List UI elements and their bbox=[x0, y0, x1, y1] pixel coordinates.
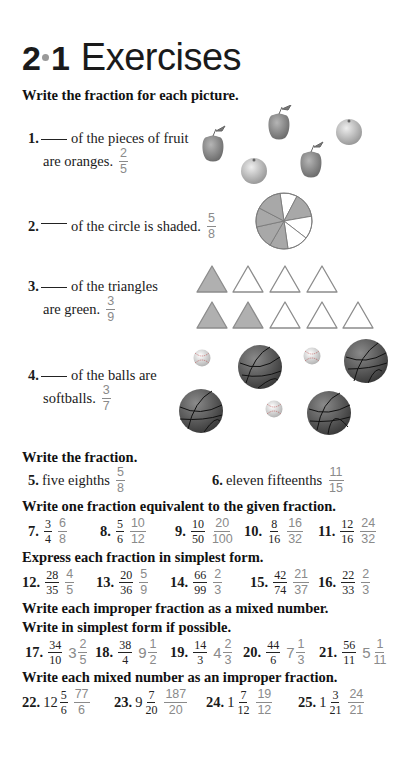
problem-text: of the pieces of fruit bbox=[71, 130, 189, 146]
triangle-icon bbox=[270, 266, 300, 292]
problem-12: 12. 2835 45 bbox=[22, 568, 76, 596]
orange-icon bbox=[241, 158, 267, 184]
problem-text: softballs. bbox=[43, 389, 96, 408]
problem-number: 3. bbox=[28, 278, 39, 294]
question-fraction: 4274 bbox=[273, 569, 287, 596]
answer-whole: 9 bbox=[138, 643, 146, 662]
problem-25: 25. 1321 2421 bbox=[298, 688, 366, 716]
problem-text: five eighths bbox=[42, 471, 110, 490]
basketball-icon bbox=[344, 339, 388, 383]
problem-number: 5. bbox=[28, 471, 39, 490]
part4-heading: Express each fraction in simplest form. bbox=[22, 549, 263, 566]
answer-fraction: 25 bbox=[78, 638, 87, 666]
orange-icon bbox=[336, 119, 362, 145]
problem-number: 2. bbox=[28, 217, 39, 236]
answer-fraction: 2432 bbox=[360, 517, 376, 545]
question-whole: 9 bbox=[135, 693, 142, 712]
problem-number: 4. bbox=[28, 367, 39, 383]
answer-fraction: 12 bbox=[148, 638, 157, 666]
question-fraction: 1216 bbox=[340, 518, 354, 545]
question-fraction: 816 bbox=[267, 518, 281, 545]
part3-row: 7. 34 68 8. 56 1012 9. 1050 20100 10. 81… bbox=[28, 517, 408, 547]
answer-fraction: 1632 bbox=[287, 517, 303, 545]
answer-whole: 4 bbox=[213, 643, 221, 662]
answer-fraction: 58 bbox=[116, 466, 125, 494]
answer-blank bbox=[41, 223, 67, 224]
problem-20: 20. 446 713 bbox=[243, 638, 307, 666]
question-fraction: 321 bbox=[328, 689, 342, 716]
answer-fraction: 25 bbox=[119, 147, 128, 175]
problem-8: 8. 56 1012 bbox=[100, 517, 148, 545]
answer-fraction: 18720 bbox=[164, 688, 187, 716]
part5-row: 17. 3410 325 18. 384 912 19. 143 423 20.… bbox=[25, 638, 409, 668]
answer-fraction: 1912 bbox=[256, 688, 272, 716]
problem-number: 1. bbox=[28, 130, 39, 146]
part6-row: 22. 1256 776 23. 9720 18720 24. 1712 191… bbox=[22, 688, 408, 718]
part5-heading-1: Write each improper fraction as a mixed … bbox=[22, 600, 328, 617]
problem-number: 6. bbox=[212, 471, 223, 490]
answer-fraction: 68 bbox=[58, 517, 67, 545]
problem-10: 10. 816 1632 bbox=[244, 517, 305, 545]
apple-icon bbox=[203, 126, 226, 162]
question-fraction: 2835 bbox=[45, 569, 59, 596]
section-number: 2 bbox=[22, 39, 40, 78]
question-fraction: 384 bbox=[118, 639, 132, 666]
part3-heading: Write one fraction equivalent to the giv… bbox=[22, 498, 336, 515]
answer-fraction: 13 bbox=[296, 638, 305, 666]
question-fraction: 712 bbox=[236, 689, 250, 716]
problem-21: 21. 5611 5111 bbox=[319, 638, 389, 666]
problem-19: 19. 143 423 bbox=[170, 638, 234, 666]
answer-fraction: 37 bbox=[102, 384, 111, 412]
problem-1: 1.of the pieces of fruit bbox=[28, 129, 188, 148]
problem-4: 4.of the balls are bbox=[28, 366, 157, 385]
problem-23: 23. 9720 18720 bbox=[114, 688, 189, 716]
ball-icon-group bbox=[170, 335, 395, 435]
softball-icon bbox=[266, 401, 283, 418]
answer-blank bbox=[41, 287, 67, 288]
question-fraction: 34 bbox=[44, 518, 52, 545]
problem-17: 17. 3410 325 bbox=[25, 638, 89, 666]
question-whole: 1 bbox=[227, 693, 234, 712]
part4-row: 12. 2835 45 13. 2036 59 14. 6699 23 15. … bbox=[22, 568, 408, 598]
question-fraction: 446 bbox=[266, 639, 280, 666]
pie-circle-icon bbox=[254, 191, 314, 251]
basketball-icon bbox=[238, 345, 282, 389]
problem-14: 14. 6699 23 bbox=[170, 568, 224, 596]
problem-text: of the balls are bbox=[71, 367, 157, 383]
section-dot-icon bbox=[42, 54, 49, 61]
problem-text: are oranges. bbox=[43, 152, 113, 171]
part1-heading: Write the fraction for each picture. bbox=[22, 87, 239, 104]
problem-4-line2: softballs. 37 bbox=[43, 384, 113, 412]
problem-16: 16. 2233 23 bbox=[318, 568, 372, 596]
question-fraction: 56 bbox=[116, 518, 124, 545]
answer-whole: 7 bbox=[286, 643, 294, 662]
problem-24: 24. 1712 1912 bbox=[206, 688, 274, 716]
answer-whole: 3 bbox=[68, 643, 76, 662]
triangle-icon bbox=[197, 266, 227, 292]
apple-icon bbox=[301, 142, 324, 178]
problem-9: 9. 1050 20100 bbox=[175, 517, 236, 545]
problem-6: 6. eleven fifteenths 1115 bbox=[212, 466, 346, 494]
answer-fraction: 59 bbox=[139, 568, 148, 596]
triangle-icon-group bbox=[190, 258, 380, 333]
answer-fraction: 2421 bbox=[348, 688, 364, 716]
triangle-icon bbox=[270, 302, 300, 328]
answer-fraction: 111 bbox=[372, 638, 387, 666]
question-fraction: 56 bbox=[60, 689, 68, 716]
triangle-icon bbox=[233, 266, 263, 292]
problem-22: 22. 1256 776 bbox=[22, 688, 92, 716]
part5-heading-2: Write in simplest form if possible. bbox=[22, 619, 231, 636]
part2-heading: Write the fraction. bbox=[22, 449, 137, 466]
question-whole: 1 bbox=[319, 693, 326, 712]
subsection-number: 1 bbox=[51, 39, 69, 78]
question-fraction: 6699 bbox=[193, 569, 207, 596]
problem-text: of the circle is shaded. bbox=[71, 217, 201, 236]
problem-18: 18. 384 912 bbox=[95, 638, 159, 666]
answer-fraction: 20100 bbox=[211, 517, 234, 545]
problem-1-line2: are oranges. 25 bbox=[43, 147, 130, 175]
answer-fraction: 776 bbox=[74, 688, 90, 716]
question-fraction: 3410 bbox=[48, 639, 62, 666]
problem-3: 3.of the triangles bbox=[28, 277, 158, 296]
answer-fraction: 23 bbox=[223, 638, 232, 666]
problem-text: eleven fifteenths bbox=[226, 471, 322, 490]
